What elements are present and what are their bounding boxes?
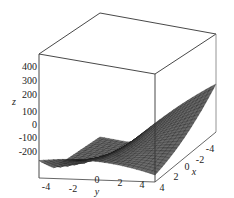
x-axis-label: x (191, 166, 197, 177)
z-tick: 200 (22, 89, 37, 100)
x-tick: -2 (196, 154, 204, 165)
y-tick: -4 (42, 181, 50, 192)
x-tick: 2 (174, 171, 179, 182)
z-tick: 300 (22, 75, 37, 86)
z-axis: z 400 300 200 100 0 -100 -200 (11, 61, 37, 157)
x-tick: 4 (160, 182, 165, 193)
x-tick: -4 (206, 143, 214, 154)
surface-plot: z 400 300 200 100 0 -100 -200 -4 -2 0 2 … (0, 0, 234, 198)
x-tick: 0 (185, 161, 190, 172)
y-axis-label: y (94, 186, 100, 197)
y-axis: -4 -2 0 2 4 y (42, 174, 145, 197)
z-axis-label: z (11, 96, 16, 107)
y-tick: 0 (95, 174, 100, 185)
y-tick: 2 (118, 177, 123, 188)
y-tick: -2 (69, 183, 77, 194)
z-tick: 0 (32, 119, 37, 130)
y-tick: 4 (140, 179, 145, 190)
z-tick: -100 (19, 132, 37, 143)
z-tick: 100 (22, 106, 37, 117)
z-tick: -200 (19, 146, 37, 157)
z-tick: 400 (22, 61, 37, 72)
